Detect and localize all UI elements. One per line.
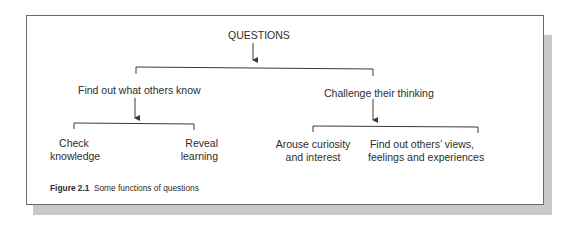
leaf-check-knowledge: Check knowledge [50, 137, 98, 162]
leaf-line-2: learning [174, 150, 218, 163]
branch-1-node: Find out what others know [78, 84, 201, 97]
leaf-line-2: knowledge [50, 150, 98, 163]
branch-2-node: Challenge their thinking [324, 87, 434, 100]
leaf-line-1: Find out others’ views, [368, 138, 476, 151]
root-node: QUESTIONS [228, 29, 290, 42]
leaf-line-1: Check [50, 137, 98, 150]
figure-caption: Figure 2.1Some functions of questions [50, 182, 199, 193]
leaf-line-2: feelings and experiences [368, 151, 476, 164]
leaf-line-1: Arouse curiosity [272, 138, 354, 151]
leaf-find-out-views: Find out others’ views, feelings and exp… [368, 138, 476, 163]
leaf-arouse-curiosity: Arouse curiosity and interest [272, 138, 354, 163]
branch-1-bracket [74, 123, 194, 130]
branch-2-bracket [313, 126, 478, 133]
root-bracket [136, 67, 373, 76]
leaf-reveal-learning: Reveal learning [174, 137, 218, 162]
leaf-line-2: and interest [272, 151, 354, 164]
figure-number: Figure 2.1 [50, 182, 89, 193]
leaf-line-1: Reveal [174, 137, 218, 150]
figure-caption-text: Some functions of questions [94, 182, 199, 193]
